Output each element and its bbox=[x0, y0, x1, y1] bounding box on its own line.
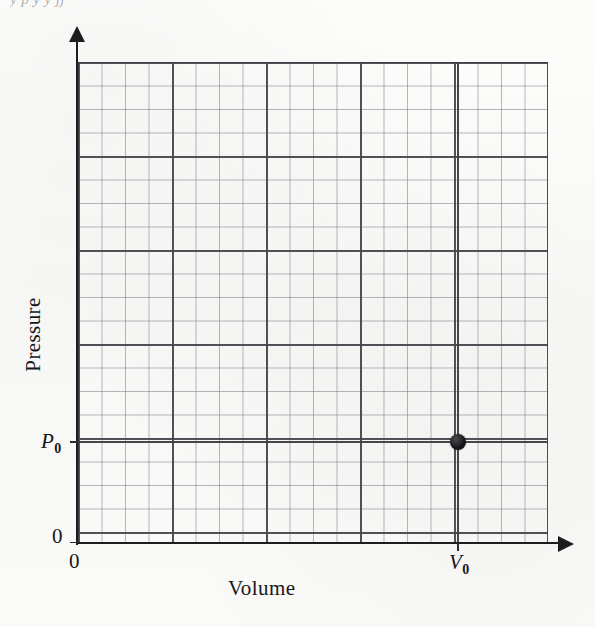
y-axis-tick-p0 bbox=[70, 441, 78, 443]
x-axis-title: Volume bbox=[228, 576, 295, 601]
data-point-marker[interactable] bbox=[450, 434, 466, 450]
y-axis-label-p0: P0 bbox=[41, 429, 61, 457]
v-symbol: V bbox=[449, 550, 462, 574]
p-symbol: P bbox=[41, 429, 54, 453]
p0-reference-line bbox=[78, 441, 548, 443]
x-axis-origin-label: 0 bbox=[69, 549, 80, 574]
x-axis-arrow-icon bbox=[558, 536, 574, 552]
y-axis-tick-origin bbox=[70, 542, 78, 544]
v0-reference-line bbox=[457, 62, 459, 543]
y-axis-title: Pressure bbox=[21, 275, 46, 395]
x-axis-label-v0: V0 bbox=[449, 550, 469, 578]
pressure-volume-figure: Pressure Volume P0 V0 0 0 bbox=[0, 0, 595, 627]
p-subscript: 0 bbox=[54, 441, 61, 456]
x-axis-line bbox=[76, 542, 560, 544]
plot-area bbox=[78, 62, 548, 543]
v-subscript: 0 bbox=[462, 562, 469, 577]
y-axis-line bbox=[76, 37, 78, 545]
y-axis-arrow-icon bbox=[69, 26, 85, 42]
plot-border bbox=[78, 62, 548, 543]
y-axis-origin-label: 0 bbox=[52, 524, 63, 549]
